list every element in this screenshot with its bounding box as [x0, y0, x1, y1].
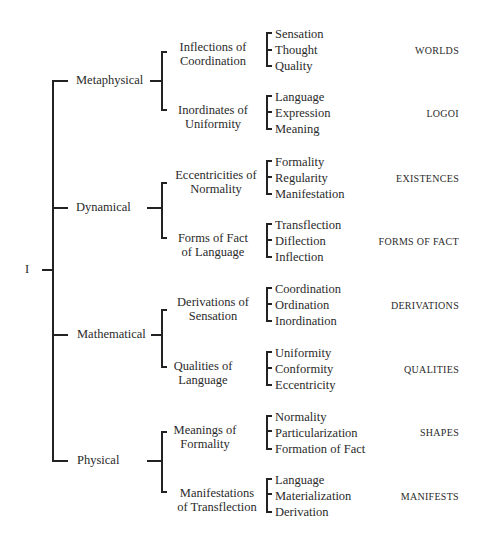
category-label: WORLDS — [359, 44, 459, 58]
category-label: DERIVATIONS — [359, 299, 459, 313]
leaf-group: Uniformity Conformity Eccentricity — [275, 345, 335, 393]
branch-mathematical: Mathematical — [77, 327, 146, 341]
subbranch-label: Forms of Fact of Language — [170, 231, 256, 259]
subbranch-label: Eccentricities of Normality — [170, 168, 262, 196]
category-label: LOGOI — [359, 107, 459, 121]
branch-metaphysical: Metaphysical — [76, 73, 143, 87]
root-label: I — [25, 262, 29, 276]
leaf-group: Sensation Thought Quality — [275, 26, 324, 74]
subbranch-label: Derivations of Sensation — [170, 295, 256, 323]
category-label: EXISTENCES — [359, 172, 459, 186]
leaf-group: Language Expression Meaning — [275, 89, 331, 137]
category-label: SHAPES — [359, 426, 459, 440]
connector-lines — [0, 0, 484, 540]
subbranch-label: Qualities of Language — [170, 359, 236, 387]
category-label: FORMS OF FACT — [359, 235, 459, 249]
category-label: MANIFESTS — [359, 490, 459, 504]
leaf-group: Coordination Ordination Inordination — [275, 281, 341, 329]
branch-physical: Physical — [77, 453, 119, 467]
subbranch-label: Meanings of Formality — [170, 423, 240, 451]
branch-dynamical: Dynamical — [76, 200, 131, 214]
tree-diagram: I Metaphysical Dynamical Mathematical Ph… — [0, 0, 484, 540]
leaf-group: Language Materialization Derivation — [275, 472, 351, 520]
subbranch-label: Inflections of Coordination — [170, 40, 256, 68]
category-label: QUALITIES — [359, 363, 459, 377]
leaf-group: Formality Regularity Manifestation — [275, 154, 344, 202]
leaf-group: Normality Particularization Formation of… — [275, 409, 365, 457]
subbranch-label: Inordinates of Uniformity — [170, 103, 256, 131]
subbranch-label: Manifestations of Transflection — [170, 486, 264, 514]
leaf-group: Transflection Diflection Inflection — [275, 217, 341, 265]
